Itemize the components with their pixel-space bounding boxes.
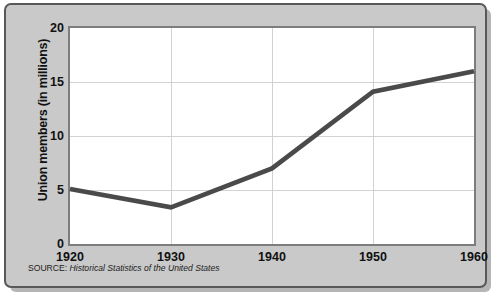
x-tick-1950: 1950 — [359, 250, 387, 264]
y-tick-5: 5 — [57, 183, 64, 197]
x-tick-1920: 1920 — [56, 250, 84, 264]
x-tick-1940: 1940 — [258, 250, 286, 264]
source-label: SOURCE: — [28, 263, 67, 273]
y-axis-title: Union members (in millions) — [36, 15, 50, 225]
series-union-members — [70, 28, 474, 244]
y-tick-0: 0 — [57, 237, 64, 251]
source-note: SOURCE: Historical Statistics of the Uni… — [28, 263, 220, 273]
x-tick-1930: 1930 — [157, 250, 185, 264]
plot-area: 0 5 10 15 20 1920 1930 1940 1950 1960 — [68, 26, 476, 246]
y-tick-20: 20 — [50, 21, 64, 35]
source-title: Historical Statistics of the United Stat… — [70, 263, 220, 273]
y-tick-15: 15 — [50, 75, 64, 89]
chart-figure: Union members (in millions) 0 5 10 15 20… — [4, 3, 487, 288]
y-tick-10: 10 — [50, 129, 64, 143]
x-tick-1960: 1960 — [460, 250, 488, 264]
